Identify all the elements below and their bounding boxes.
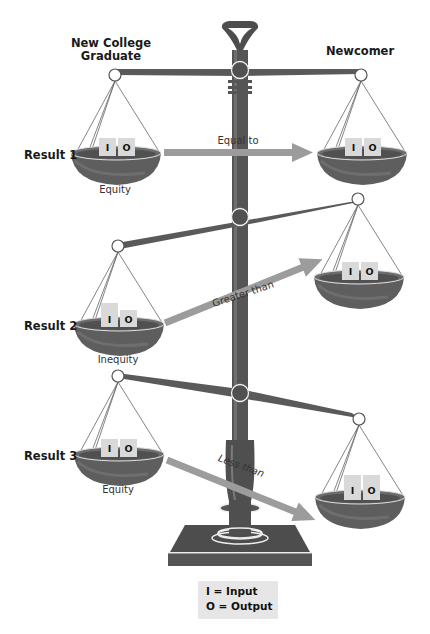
result-3-caption: Equity bbox=[102, 484, 134, 495]
pivot-3 bbox=[232, 385, 249, 402]
svg-text:I: I bbox=[108, 314, 112, 325]
result-1-label: Result 1 bbox=[24, 148, 77, 162]
svg-text:O: O bbox=[368, 142, 376, 153]
legend-output: O = Output bbox=[206, 599, 278, 614]
header-newcomer: Newcomer bbox=[326, 44, 395, 58]
balance-scale-diagram: I O I O I O I O I O I O bbox=[0, 0, 430, 634]
comparison-equal-to: Equal to bbox=[217, 135, 258, 146]
svg-text:I: I bbox=[106, 142, 110, 153]
header-new-college-graduate-line2: Graduate bbox=[81, 49, 142, 63]
svg-text:O: O bbox=[124, 314, 132, 325]
header-new-college-graduate: New College bbox=[71, 36, 151, 50]
result-2-label: Result 2 bbox=[24, 319, 77, 333]
pan-right-result-2: I O bbox=[314, 193, 404, 309]
svg-text:I: I bbox=[351, 485, 355, 496]
legend-input: I = Input bbox=[206, 584, 278, 599]
beam-result-1 bbox=[115, 62, 360, 79]
pan-right-result-1: I O bbox=[317, 69, 407, 185]
result-1-caption: Equity bbox=[99, 184, 131, 195]
pan-right-result-3: I O bbox=[315, 413, 405, 529]
svg-text:I: I bbox=[108, 443, 112, 454]
pillar-top-handle bbox=[222, 21, 258, 50]
svg-text:O: O bbox=[122, 142, 130, 153]
pan-left-result-3: I O bbox=[74, 370, 164, 486]
svg-text:I: I bbox=[349, 266, 353, 277]
svg-text:I: I bbox=[352, 142, 356, 153]
pivot-2 bbox=[232, 209, 249, 226]
svg-text:O: O bbox=[367, 485, 375, 496]
svg-text:O: O bbox=[365, 266, 373, 277]
legend: I = Input O = Output bbox=[198, 581, 278, 619]
pan-left-result-2: I O bbox=[74, 240, 164, 356]
result-2-caption: Inequity bbox=[98, 354, 139, 365]
result-3-label: Result 3 bbox=[24, 449, 77, 463]
pan-left-result-1: I O bbox=[71, 69, 161, 185]
pivot-1 bbox=[232, 62, 249, 79]
svg-text:O: O bbox=[124, 443, 132, 454]
